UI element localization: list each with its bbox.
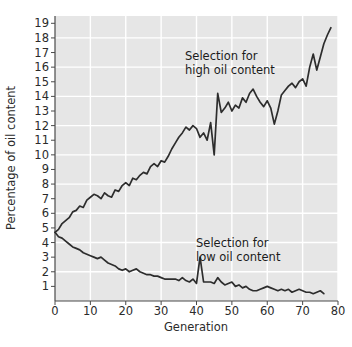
x-tick-label: 10: [83, 304, 98, 318]
x-tick-label: 60: [260, 304, 275, 318]
y-axis-title: Percentage of oil content: [4, 85, 18, 230]
annotation-high-line2: high oil content: [185, 63, 275, 77]
annotation-low-line2: low oil content: [196, 250, 281, 264]
y-tick-label: 5: [42, 221, 49, 235]
y-tick-label: 2: [42, 265, 49, 279]
x-tick-label: 30: [154, 304, 169, 318]
y-tick-label: 4: [42, 236, 49, 250]
x-tick-label: 50: [225, 304, 240, 318]
y-tick-label: 9: [42, 162, 49, 176]
x-axis-tick-labels: 01020304050607080: [51, 304, 345, 318]
x-tick-label: 0: [51, 304, 58, 318]
y-tick-label: 11: [34, 133, 49, 147]
x-tick-label: 20: [118, 304, 133, 318]
y-tick-label: 13: [34, 104, 49, 118]
y-tick-label: 12: [34, 119, 49, 133]
y-tick-label: 7: [42, 192, 49, 206]
oil-content-line-chart: 12345678910111213141516171819 0102030405…: [0, 0, 352, 347]
chart-container: 12345678910111213141516171819 0102030405…: [0, 0, 352, 347]
x-axis-title: Generation: [164, 320, 228, 334]
y-tick-label: 19: [34, 16, 49, 30]
x-tick-label: 80: [331, 304, 346, 318]
y-tick-label: 14: [34, 89, 49, 103]
y-tick-label: 10: [34, 148, 49, 162]
y-tick-label: 15: [34, 75, 49, 89]
y-tick-label: 17: [34, 46, 49, 60]
y-tick-label: 18: [34, 31, 49, 45]
y-tick-label: 16: [34, 60, 49, 74]
x-tick-label: 70: [295, 304, 310, 318]
y-tick-label: 8: [42, 177, 49, 191]
x-tick-label: 40: [189, 304, 204, 318]
y-tick-label: 1: [42, 279, 49, 293]
annotation-low-line1: Selection for: [196, 236, 269, 250]
annotation-high-line1: Selection for: [185, 49, 258, 63]
y-tick-label: 6: [42, 206, 49, 220]
y-tick-label: 3: [42, 250, 49, 264]
